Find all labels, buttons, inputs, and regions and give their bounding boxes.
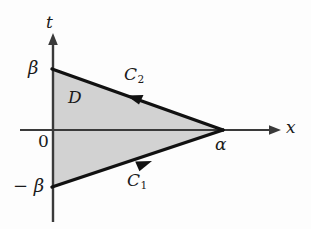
t-axis-label: t [46,14,53,31]
curve-C2-label-subscript: 2 [137,73,144,85]
curve-C2-label: C2 [124,66,144,83]
beta-tick-label: β [28,59,38,77]
alpha-tick-label: α [215,136,226,153]
origin-label: 0 [38,133,49,150]
x-axis-arrowhead [269,125,281,135]
region-D-label: D [68,89,82,106]
diagram-svg [0,0,311,229]
curve-C1-label-base: C [127,170,140,190]
curve-C1-label: C1 [127,172,147,189]
curve-C2-label-base: C [124,64,137,84]
curve-C1-label-subscript: 1 [140,179,147,191]
figure-canvas: t x 0 β − β α D C2 C1 [0,0,311,229]
negative-beta-tick-label: − β [13,177,44,195]
t-axis-arrowhead [48,33,58,45]
x-axis-label: x [286,119,296,136]
